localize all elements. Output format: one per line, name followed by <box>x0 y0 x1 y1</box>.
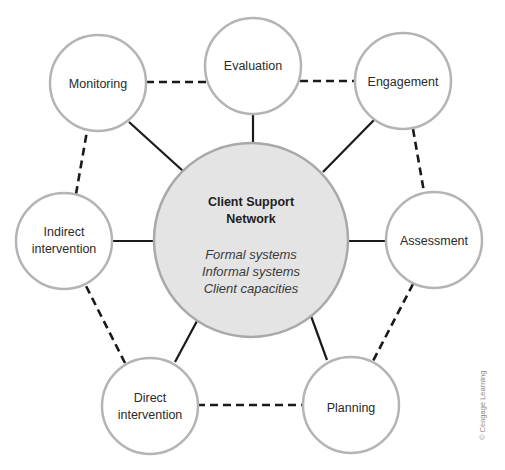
center-node: Client Support Network Formal systems In… <box>154 143 348 337</box>
node-label-evaluation: Evaluation <box>224 59 282 73</box>
node-planning: Planning <box>303 357 399 453</box>
dashed-link-indirect-monitoring <box>76 131 87 194</box>
spoke-monitoring <box>129 122 183 171</box>
node-label-engagement: Engagement <box>368 75 439 89</box>
node-label-planning: Planning <box>327 401 376 415</box>
node-label-assessment: Assessment <box>400 234 469 248</box>
center-title-line-1: Client Support <box>208 195 295 209</box>
spoke-direct <box>175 321 197 362</box>
node-label-direct-1: Direct <box>134 391 167 405</box>
node-label-indirect-2: intervention <box>32 242 97 256</box>
node-label-monitoring: Monitoring <box>69 77 127 91</box>
dashed-link-engagement-assessment <box>413 129 424 192</box>
node-direct-intervention: Direct intervention <box>102 358 198 454</box>
node-label-direct-2: intervention <box>118 408 183 422</box>
dashed-link-direct-indirect <box>86 286 125 363</box>
center-item-formal: Formal systems <box>205 247 297 262</box>
node-indirect-intervention: Indirect intervention <box>16 193 112 289</box>
node-engagement: Engagement <box>355 33 451 129</box>
dashed-link-assessment-planning <box>373 284 413 361</box>
spoke-engagement <box>323 120 374 172</box>
center-item-capacities: Client capacities <box>204 281 299 296</box>
center-title-line-2: Network <box>226 212 275 226</box>
node-label-indirect-1: Indirect <box>44 225 86 239</box>
node-monitoring: Monitoring <box>50 35 146 131</box>
client-support-network-diagram: Client Support Network Formal systems In… <box>0 0 505 470</box>
node-assessment: Assessment <box>386 192 482 288</box>
node-evaluation: Evaluation <box>205 18 301 114</box>
copyright-credit: © Cengage Learning <box>478 371 487 440</box>
center-item-informal: Informal systems <box>202 264 301 279</box>
spoke-planning <box>311 316 327 360</box>
